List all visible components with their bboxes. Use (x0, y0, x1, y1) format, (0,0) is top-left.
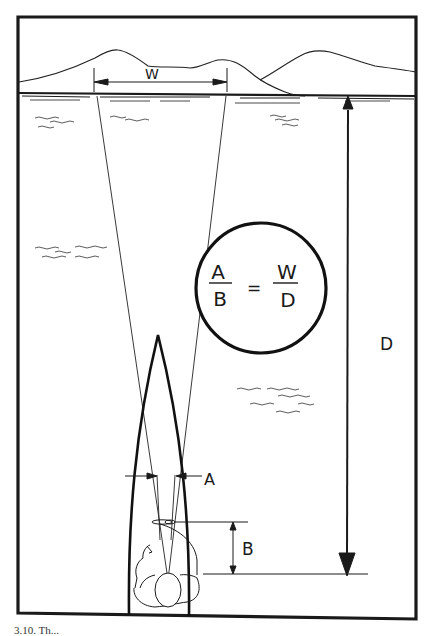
formula-equals: = (247, 278, 261, 298)
formula-w: W (277, 260, 297, 284)
a-label: A (204, 470, 215, 489)
w-label: W (145, 66, 159, 82)
formula-b: B (213, 287, 227, 311)
d-label: D (380, 334, 393, 354)
shoreline (19, 93, 416, 103)
sight-lines (97, 96, 226, 580)
formula-d: D (280, 288, 295, 312)
mountain-skyline (19, 50, 416, 96)
figure-caption: 3.10. Th... (14, 624, 59, 636)
w-dimension (94, 68, 227, 92)
a-dimension (125, 473, 202, 479)
b-label: B (242, 539, 254, 559)
formula-a: A (211, 260, 225, 284)
